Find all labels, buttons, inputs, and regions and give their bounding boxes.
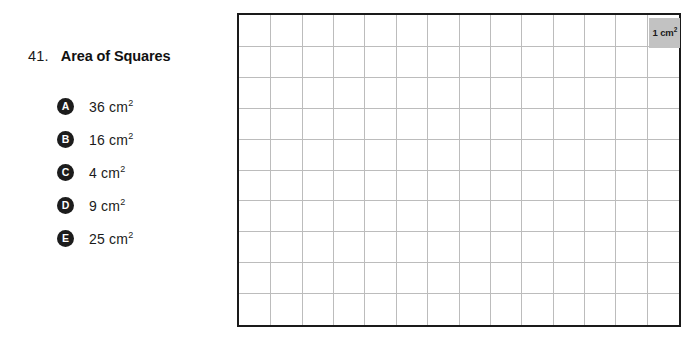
option-bullet-b[interactable]: B xyxy=(57,131,74,148)
option-exponent: 2 xyxy=(128,230,133,240)
option-label-a: 36 cm2 xyxy=(89,99,133,115)
grid-lines-layer xyxy=(239,15,679,325)
option-exponent: 2 xyxy=(128,98,133,108)
option-bullet-e[interactable]: E xyxy=(57,230,74,247)
option-label-d: 9 cm2 xyxy=(89,198,125,214)
grid-line-horizontal xyxy=(239,170,679,171)
grid-line-horizontal xyxy=(239,108,679,109)
area-grid-figure: 1 cm2 xyxy=(237,13,681,327)
option-label-c: 4 cm2 xyxy=(89,165,125,181)
answer-option-d[interactable]: D9 cm2 xyxy=(57,189,237,222)
grid-line-horizontal xyxy=(239,262,679,263)
option-exponent: 2 xyxy=(120,197,125,207)
option-label-e: 25 cm2 xyxy=(89,231,133,247)
question-block: 41. Area of Squares A36 cm2B16 cm2C4 cm2… xyxy=(0,0,237,339)
grid-line-horizontal xyxy=(239,200,679,201)
option-exponent: 2 xyxy=(128,131,133,141)
grid-line-horizontal xyxy=(239,293,679,294)
page-title: Area of Squares xyxy=(61,48,171,64)
grid-line-horizontal xyxy=(239,77,679,78)
option-bullet-d[interactable]: D xyxy=(57,197,74,214)
grid-line-horizontal xyxy=(239,231,679,232)
option-exponent: 2 xyxy=(120,164,125,174)
unit-square-exponent: 2 xyxy=(674,26,678,33)
answer-option-e[interactable]: E25 cm2 xyxy=(57,222,237,255)
answer-option-c[interactable]: C4 cm2 xyxy=(57,156,237,189)
question-header: 41. Area of Squares xyxy=(28,48,170,64)
answer-option-a[interactable]: A36 cm2 xyxy=(57,90,237,123)
option-label-b: 16 cm2 xyxy=(89,132,133,148)
option-bullet-c[interactable]: C xyxy=(57,164,74,181)
question-number: 41. xyxy=(28,48,49,64)
grid-line-horizontal xyxy=(239,139,679,140)
grid-line-horizontal xyxy=(239,46,679,47)
option-bullet-a[interactable]: A xyxy=(57,98,74,115)
unit-square-cell: 1 cm2 xyxy=(649,18,680,49)
answer-options-list: A36 cm2B16 cm2C4 cm2D9 cm2E25 cm2 xyxy=(57,90,237,255)
answer-option-b[interactable]: B16 cm2 xyxy=(57,123,237,156)
unit-square-label: 1 cm2 xyxy=(652,27,677,38)
